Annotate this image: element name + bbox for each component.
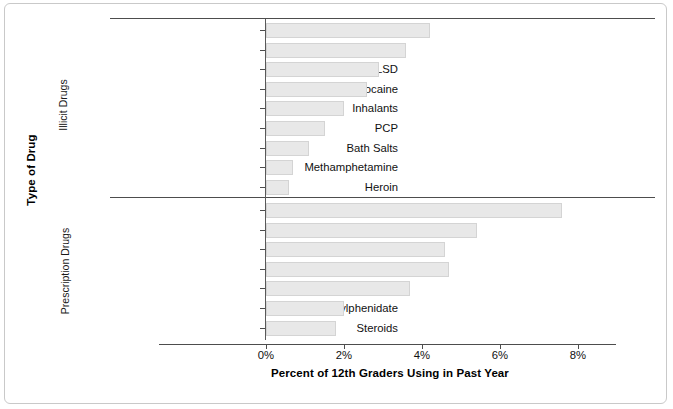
bar — [266, 62, 379, 77]
chart-figure: Type of Drug Illicit Drugs Prescription … — [4, 3, 667, 404]
y-axis-tick — [260, 210, 265, 211]
bar-row: Steroids — [5, 318, 665, 338]
bar — [266, 281, 410, 296]
bar-row: LSD — [5, 59, 665, 79]
bar — [266, 141, 309, 156]
bar — [266, 121, 325, 136]
bar — [266, 82, 367, 97]
bar — [266, 23, 430, 38]
bar — [266, 301, 344, 316]
y-axis-tick — [260, 30, 265, 31]
bar-row: PCP — [5, 118, 665, 138]
bar — [266, 321, 336, 336]
bar — [266, 101, 344, 116]
bar-row: MDMA — [5, 40, 665, 60]
y-axis-tick — [260, 308, 265, 309]
x-axis-tick-label: 4% — [402, 349, 442, 361]
bar-row: Methylphenidate — [5, 298, 665, 318]
group-separator-line — [110, 197, 655, 198]
y-axis-tick — [260, 288, 265, 289]
x-axis-tick-label: 0% — [246, 349, 286, 361]
y-axis-tick — [260, 249, 265, 250]
y-axis-tick — [260, 269, 265, 270]
bar — [266, 223, 477, 238]
bar-row: Amphetamine — [5, 200, 665, 220]
bar — [266, 242, 445, 257]
y-axis-tick — [260, 50, 265, 51]
bar — [266, 160, 293, 175]
y-axis-tick — [260, 89, 265, 90]
bar-row: Bath Salts — [5, 138, 665, 158]
y-axis-tick — [260, 148, 265, 149]
bar-row: Prescription Narcotics — [5, 220, 665, 240]
y-axis-tick — [260, 230, 265, 231]
x-axis-title: Percent of 12th Graders Using in Past Ye… — [155, 367, 625, 379]
bar — [266, 203, 562, 218]
panel-top-border — [110, 18, 655, 19]
x-axis-tick-label: 2% — [324, 349, 364, 361]
x-axis-line — [159, 344, 616, 345]
x-axis-tick-label: 6% — [480, 349, 520, 361]
y-axis-tick — [260, 108, 265, 109]
bar-row: Cocaine — [5, 79, 665, 99]
bar — [266, 262, 449, 277]
y-axis-tick — [260, 167, 265, 168]
y-axis-tick — [260, 69, 265, 70]
bar-row: Heroin — [5, 177, 665, 197]
x-axis-tick-label: 8% — [558, 349, 598, 361]
bar — [266, 180, 289, 195]
bar-row: Cough Medicine — [5, 239, 665, 259]
bar — [266, 43, 406, 58]
bar-row: Inhalants — [5, 98, 665, 118]
bar-row: Methamphetamine — [5, 157, 665, 177]
y-axis-tick — [260, 187, 265, 188]
bar-row: Hallucinogens — [5, 20, 665, 40]
y-axis-tick — [260, 328, 265, 329]
bar-row: Sedatives — [5, 278, 665, 298]
y-axis-tick — [260, 128, 265, 129]
bar-row: Tranquilizers — [5, 259, 665, 279]
